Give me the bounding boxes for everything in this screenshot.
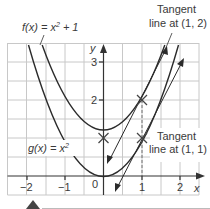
tick-y3: 3 [91, 56, 97, 68]
y-axis-arrow-icon [100, 44, 107, 53]
x-axis-arrow-icon [196, 173, 205, 180]
arrowhead-icon [107, 155, 113, 164]
triangle-marker-icon [26, 200, 40, 209]
tangent12-leader [165, 33, 172, 50]
graph: f(x) = x2 + 1 g(x) = x2 Tangent line at … [0, 0, 210, 209]
tick-xm1: −1 [58, 181, 71, 193]
arrowhead-icon [115, 183, 121, 192]
f-label: f(x) = x2 + 1 [22, 21, 78, 33]
x-axis-label: x [193, 182, 200, 194]
tick-x1: 1 [139, 181, 145, 193]
tick-x0: 0 [92, 178, 98, 190]
tick-xm2: −2 [20, 181, 33, 193]
tick-x2: 2 [177, 181, 183, 193]
g-label: g(x) = x2 [28, 142, 69, 154]
tangent11-label: Tangent line at (1, 1) [149, 130, 207, 155]
tangent12-label: Tangent line at (1, 2) [149, 3, 207, 29]
tick-y2: 2 [91, 94, 97, 106]
